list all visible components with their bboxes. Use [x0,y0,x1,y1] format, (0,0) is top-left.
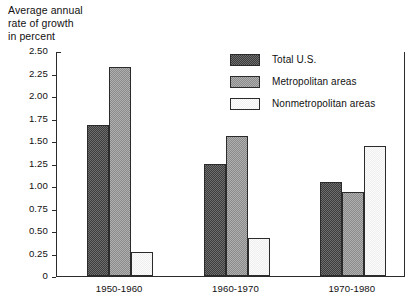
chart-axis-title: Average annual rate of growth in percent [8,4,83,44]
bar-1960-1970-metropolitan-areas [226,136,248,276]
x-axis-label-1950-1960: 1950-1960 [69,283,169,294]
bar-1960-1970-total-u-s [204,164,226,276]
legend-swatch-icon [230,76,260,88]
y-axis-tick-label: 1.00 [29,180,48,191]
bar-1970-1980-metropolitan-areas [342,192,364,276]
chart-legend: Total U.S.Metropolitan areasNonmetropoli… [230,50,375,116]
legend-swatch-icon [230,98,260,110]
bar-1970-1980-total-u-s [320,182,342,277]
y-axis-tick-label: 2.50 [29,45,48,56]
y-axis-tick-label: 1.25 [29,158,48,169]
bar-1950-1960-nonmetropolitan-areas [131,252,153,276]
bar-1950-1960-metropolitan-areas [109,67,131,276]
legend-item-metropolitan-areas[interactable]: Metropolitan areas [230,72,375,91]
bar-1970-1980-nonmetropolitan-areas [364,146,386,277]
y-axis-tick-label: 2.25 [29,68,48,79]
legend-swatch-icon [230,54,260,66]
y-axis-tick-label: 0 [43,270,48,281]
y-axis-top-cap [56,52,61,53]
legend-item-label: Nonmetropolitan areas [272,98,375,109]
x-axis-label-1960-1970: 1960-1970 [186,283,286,294]
legend-item-label: Total U.S. [272,54,316,65]
x-axis-label-1970-1980: 1970-1980 [302,283,402,294]
y-axis-tick-label: 1.50 [29,135,48,146]
bar-chart: Average annual rate of growth in percent… [0,0,413,306]
legend-item-nonmetropolitan-areas[interactable]: Nonmetropolitan areas [230,94,375,113]
bar-1950-1960-total-u-s [87,125,109,276]
bar-1960-1970-nonmetropolitan-areas [248,238,270,276]
legend-item-total-u-s[interactable]: Total U.S. [230,50,375,69]
y-axis-tick-label: 1.75 [29,113,48,124]
legend-item-label: Metropolitan areas [272,76,357,87]
y-axis-tick-label: 2.00 [29,90,48,101]
y-axis-tick-mark [52,277,56,278]
y-axis-tick-label: 0.25 [29,248,48,259]
y-axis-tick-label: 0.75 [29,203,48,214]
y-axis-tick-label: 0.50 [29,225,48,236]
